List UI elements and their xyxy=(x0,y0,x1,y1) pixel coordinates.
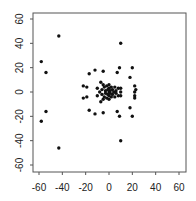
data-point xyxy=(40,120,43,123)
y-tick-label: 20 xyxy=(14,62,25,74)
y-tick-label: 40 xyxy=(14,37,25,49)
data-point xyxy=(44,110,47,113)
data-point xyxy=(119,87,122,90)
y-axis: -60-40-200204060 xyxy=(14,13,33,172)
data-point xyxy=(119,94,122,97)
data-point xyxy=(133,90,136,93)
data-point xyxy=(96,94,99,97)
data-point xyxy=(40,60,43,63)
x-tick-label: 0 xyxy=(106,182,112,193)
scatter-chart: -60-40-200204060 -60-40-200204060 xyxy=(0,0,196,201)
x-tick-label: -60 xyxy=(32,182,47,193)
data-point xyxy=(113,85,116,88)
data-point xyxy=(88,109,91,112)
data-point xyxy=(99,100,102,103)
data-point xyxy=(82,84,85,87)
data-point xyxy=(131,66,134,69)
data-point xyxy=(105,84,108,87)
data-point xyxy=(106,88,109,91)
y-tick-label: -40 xyxy=(14,133,25,148)
x-tick-label: 20 xyxy=(127,182,139,193)
data-point xyxy=(99,81,102,84)
data-point xyxy=(119,90,122,93)
data-point xyxy=(128,106,131,109)
data-point xyxy=(113,95,116,98)
data-point xyxy=(118,66,121,69)
data-point xyxy=(128,76,131,79)
data-point xyxy=(133,84,136,87)
data-point xyxy=(98,90,101,93)
data-point xyxy=(85,95,88,98)
data-point xyxy=(119,139,122,142)
data-point xyxy=(131,115,134,118)
data-point xyxy=(57,146,60,149)
y-tick-label: 0 xyxy=(14,89,25,95)
data-point xyxy=(105,96,108,99)
y-tick-label: -60 xyxy=(14,157,25,172)
data-point xyxy=(102,111,105,114)
data-point xyxy=(82,96,85,99)
y-tick-label: 60 xyxy=(14,13,25,25)
data-point xyxy=(119,42,122,45)
data-point xyxy=(44,71,47,74)
data-point xyxy=(133,96,136,99)
data-point xyxy=(93,68,96,71)
data-point xyxy=(118,115,121,118)
x-axis: -60-40-200204060 xyxy=(32,172,185,193)
data-point xyxy=(88,72,91,75)
data-point xyxy=(85,85,88,88)
data-point xyxy=(102,70,105,73)
data-point xyxy=(57,34,60,37)
data-point xyxy=(106,93,109,96)
data-point xyxy=(96,87,99,90)
data-point xyxy=(114,92,117,95)
data-point xyxy=(116,71,119,74)
x-tick-label: 60 xyxy=(173,182,185,193)
data-point xyxy=(93,112,96,115)
data-point xyxy=(116,110,119,113)
x-tick-label: 40 xyxy=(150,182,162,193)
x-tick-label: -20 xyxy=(78,182,93,193)
y-tick-label: -20 xyxy=(14,109,25,124)
x-tick-label: -40 xyxy=(55,182,70,193)
